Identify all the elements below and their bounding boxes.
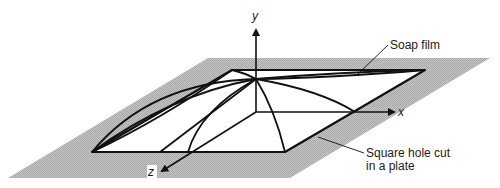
x-axis-label: x xyxy=(397,105,405,119)
soap-film-label: Soap film xyxy=(390,38,440,52)
soap-film-diagram: y x z Soap film Square hole cut in a pla… xyxy=(0,0,500,188)
hole-label-line1: Square hole cut xyxy=(366,146,451,160)
y-axis-label: y xyxy=(251,9,259,23)
hole-label-line2: in a plate xyxy=(366,159,415,173)
z-axis-label: z xyxy=(147,165,154,179)
